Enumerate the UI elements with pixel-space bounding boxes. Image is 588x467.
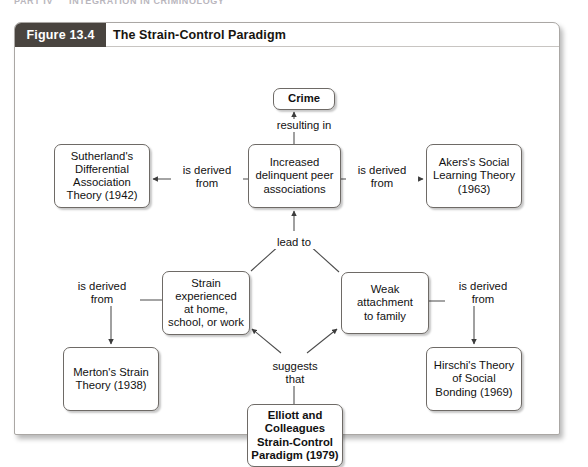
node-strain-experienced[interactable]: Strain experienced at home, school, or w… [162, 271, 250, 335]
node-elliott-and-colleagues-strain-control-paradigm[interactable]: Elliott and Colleagues Strain-Control Pa… [247, 404, 343, 467]
node-crime[interactable]: Crime [273, 88, 335, 110]
edge-label-resulting-in: resulting in [259, 119, 349, 132]
node-weak-attachment-to-family[interactable]: Weak attachment to family [341, 272, 429, 334]
figure-header: Figure 13.4 The Strain-Control Paradigm [15, 23, 559, 47]
running-head: PART IVINTEGRATION IN CRIMINOLOGY [14, 0, 224, 8]
edge-label-peers-to-sutherland: is derived from [171, 164, 243, 190]
running-head-section: INTEGRATION IN CRIMINOLOGY [69, 0, 224, 6]
node-hirschis-theory-of-social-bonding[interactable]: Hirschi's Theory of Social Bonding (1969… [426, 347, 522, 411]
edge-junction-to-strain [252, 329, 281, 353]
node-sutherland-label: Sutherland's Differential Association Th… [64, 150, 141, 203]
node-peers-label: Increased delinquent peer associations [253, 156, 337, 196]
node-strain-label: Strain experienced at home, school, or w… [165, 277, 247, 330]
edge-label-weak-to-hirschi: is derived from [445, 280, 521, 306]
node-hirschi-label: Hirschi's Theory of Social Bonding (1969… [431, 359, 517, 399]
node-sutherland-differential-association-theory[interactable]: Sutherland's Differential Association Th… [54, 144, 150, 208]
node-mertons-strain-theory[interactable]: Merton's Strain Theory (1938) [63, 347, 159, 411]
node-increased-delinquent-peer-associations[interactable]: Increased delinquent peer associations [248, 144, 341, 208]
figure-number-tab: Figure 13.4 [15, 23, 106, 47]
edge-label-strain-to-merton: is derived from [64, 280, 140, 306]
edge-label-peers-to-akers: is derived from [346, 164, 418, 190]
node-weak-label: Weak attachment to family [354, 283, 416, 323]
node-crime-label: Crime [285, 92, 323, 105]
node-akers-label: Akers's Social Learning Theory (1963) [430, 156, 518, 196]
figure-body: Crime Increased delinquent peer associat… [15, 48, 559, 435]
running-head-part: PART IV [14, 0, 53, 6]
edge-junction-to-weak [307, 329, 337, 353]
edge-label-lead-to: lead to [265, 236, 323, 249]
figure-card: Figure 13.4 The Strain-Control Paradigm [14, 22, 560, 435]
node-akers-social-learning-theory[interactable]: Akers's Social Learning Theory (1963) [426, 144, 522, 208]
node-elliott-label: Elliott and Colleagues Strain-Control Pa… [248, 409, 341, 462]
edge-label-suggests-that: suggests that [262, 360, 328, 386]
figure-title: The Strain-Control Paradigm [113, 23, 286, 47]
node-merton-label: Merton's Strain Theory (1938) [70, 366, 152, 392]
